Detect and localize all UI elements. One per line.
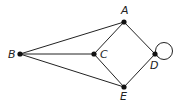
node-label-D: D xyxy=(150,59,158,72)
edge-A-D xyxy=(124,22,155,54)
node-D xyxy=(152,51,157,56)
node-label-C: C xyxy=(100,48,108,61)
node-E xyxy=(121,84,126,89)
node-label-E: E xyxy=(120,90,127,103)
node-label-B: B xyxy=(8,48,16,61)
node-B xyxy=(17,51,22,56)
loop-edge-D xyxy=(156,43,173,60)
graph-diagram: ABCDE xyxy=(0,0,177,103)
node-label-A: A xyxy=(120,4,129,17)
node-C xyxy=(91,51,96,56)
node-A xyxy=(121,19,126,24)
